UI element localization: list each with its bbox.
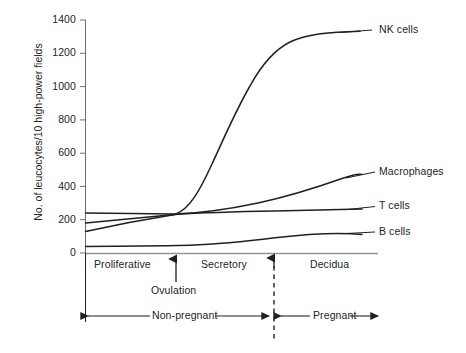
series-line-macrophages xyxy=(86,174,363,214)
phase-label-decidua: Decidua xyxy=(310,259,349,270)
y-tick-label-1200: 1200 xyxy=(38,47,76,58)
y-tick-label-0: 0 xyxy=(38,247,76,258)
y-tick-label-400: 400 xyxy=(38,181,76,192)
series-line-nk-cells xyxy=(86,31,361,223)
series-label-nk-cells: NK cells xyxy=(379,24,418,35)
series-label-macrophages: Macrophages xyxy=(379,166,444,177)
leucocyte-population-chart: No. of leucocytes/10 high-power fields 1… xyxy=(0,0,466,353)
y-tick-label-1400: 1400 xyxy=(38,14,76,25)
series-label-t-cells: T cells xyxy=(379,200,410,211)
series-line-t-cells xyxy=(86,209,363,231)
y-axis-ticks xyxy=(80,20,86,253)
y-axis-title: No. of leucocytes/10 high-power fields xyxy=(32,32,44,232)
phase-label-secretory: Secretory xyxy=(201,259,247,270)
pregnant-label: Pregnant xyxy=(313,310,356,321)
non-pregnant-label: Non-pregnant xyxy=(152,310,217,321)
series-label-b-cells: B cells xyxy=(379,226,411,237)
y-tick-label-1000: 1000 xyxy=(38,81,76,92)
leader-line-b-cells xyxy=(346,232,375,234)
leader-line-macrophages xyxy=(346,172,375,178)
y-tick-label-800: 800 xyxy=(38,114,76,125)
series-line-b-cells xyxy=(86,233,363,246)
ovulation-label: Ovulation xyxy=(151,285,196,296)
y-tick-label-200: 200 xyxy=(38,214,76,225)
y-tick-label-600: 600 xyxy=(38,147,76,158)
phase-label-proliferative: Proliferative xyxy=(94,259,151,270)
